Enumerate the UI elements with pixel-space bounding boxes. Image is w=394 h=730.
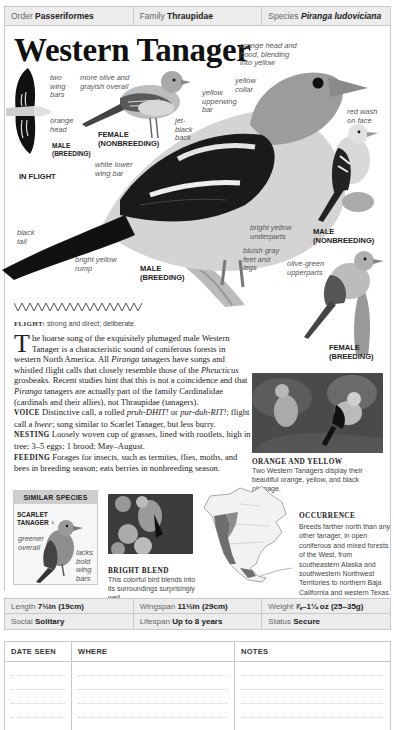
annotation-bluish-gray-feet: bluish gray feet and legs bbox=[243, 247, 283, 273]
log-rows bbox=[5, 662, 390, 730]
annotation-greener-overall: greener overall bbox=[18, 535, 42, 552]
species-value: Piranga ludoviciana bbox=[301, 11, 381, 21]
where-line[interactable] bbox=[78, 704, 228, 718]
voice-call: pruh-DHIT! bbox=[127, 407, 169, 417]
genus-name: Pheucticus bbox=[201, 365, 239, 375]
order-label: Order bbox=[11, 11, 33, 21]
tag-male-nonbreeding: MALE (NONBREEDING) bbox=[313, 227, 383, 245]
column-date-seen: DATE SEEN bbox=[5, 642, 72, 661]
status-value: Secure bbox=[293, 617, 320, 626]
log-header: DATE SEEN WHERE NOTES bbox=[5, 642, 390, 662]
where-line[interactable] bbox=[78, 662, 228, 676]
status-cell: Status Secure bbox=[262, 614, 390, 629]
column-notes: NOTES bbox=[235, 642, 390, 661]
orange-yellow-caption-title: ORANGE AND YELLOW bbox=[252, 457, 342, 466]
occurrence-title: OCCURRENCE bbox=[299, 511, 355, 520]
flight-pattern-icon bbox=[14, 302, 144, 312]
species-cell: Species Piranga ludoviciana bbox=[262, 7, 390, 25]
voice-text: or bbox=[169, 407, 180, 417]
notes-line[interactable] bbox=[241, 662, 384, 676]
weight-cell: Weight ⅞–1¼ oz (25–35g) bbox=[262, 599, 390, 613]
species-description: The hoarse song of the exquisitely pluma… bbox=[14, 333, 254, 474]
annotation-bright-yellow-rump: bright yellow rump bbox=[75, 256, 120, 273]
date-line[interactable] bbox=[11, 690, 65, 704]
lifespan-label: Lifespan bbox=[140, 617, 170, 626]
date-line[interactable] bbox=[11, 662, 65, 676]
social-label: Social bbox=[11, 617, 33, 626]
order-cell: Order Passeriformes bbox=[5, 7, 134, 25]
flight-description: FLIGHT: strong and direct; deliberate. bbox=[14, 320, 136, 328]
species-label: Species bbox=[268, 11, 298, 21]
notes-line[interactable] bbox=[241, 690, 384, 704]
annotation-black-tail: black tail bbox=[17, 229, 37, 246]
weight-label: Weight bbox=[268, 602, 293, 611]
tag-female-breeding: FEMALE (BREEDING) bbox=[329, 343, 379, 361]
voice-label: VOICE bbox=[14, 408, 40, 417]
annotation-jet-black-back: jet-black back bbox=[175, 117, 201, 143]
nesting-label: NESTING bbox=[14, 430, 50, 439]
lifespan-value: Up to 8 years bbox=[172, 617, 222, 626]
intro-text: tanagers are actually part of the family… bbox=[14, 386, 223, 407]
stats-row-1: Length 7½in (19cm) Wingspan 11½in (29cm)… bbox=[4, 598, 391, 614]
voice-text: ; song similar to Scarlet Tanager, but l… bbox=[52, 419, 216, 429]
wingspan-cell: Wingspan 11½in (29cm) bbox=[134, 599, 263, 613]
feeding-label: FEEDING bbox=[14, 453, 50, 462]
taxonomy-bar: Order Passeriformes Family Thraupidae Sp… bbox=[4, 6, 391, 26]
length-cell: Length 7½in (19cm) bbox=[5, 599, 134, 613]
social-cell: Social Solitary bbox=[5, 614, 134, 629]
notes-line[interactable] bbox=[241, 704, 384, 718]
date-line[interactable] bbox=[11, 704, 65, 718]
bright-blend-caption-title: BRIGHT BLEND bbox=[108, 566, 169, 575]
column-where: WHERE bbox=[72, 642, 235, 661]
voice-text: Distinctive call, a rolled bbox=[40, 407, 127, 417]
tag-male-breeding: MALE (BREEDING) bbox=[140, 264, 190, 282]
annotation-olive-green-upperparts: olive-green upperparts bbox=[287, 260, 327, 277]
flight-text: strong and direct; deliberate. bbox=[45, 320, 136, 327]
where-line[interactable] bbox=[78, 718, 228, 730]
genus-name: Piranga bbox=[14, 386, 42, 396]
date-seen-entries[interactable] bbox=[5, 662, 72, 730]
sighting-log-table: DATE SEEN WHERE NOTES bbox=[4, 641, 391, 730]
family-cell: Family Thraupidae bbox=[134, 7, 263, 25]
where-line[interactable] bbox=[78, 676, 228, 690]
status-label: Status bbox=[268, 617, 291, 626]
weight-value: ⅞–1¼ oz (25–35g) bbox=[295, 602, 363, 611]
drop-cap: T bbox=[14, 334, 30, 354]
notes-line[interactable] bbox=[241, 676, 384, 690]
similar-species-header: SIMILAR SPECIES bbox=[14, 491, 97, 504]
where-line[interactable] bbox=[78, 690, 228, 704]
intro-text: grosbeaks. Recent studies hint that this… bbox=[14, 375, 247, 385]
nesting-text: Loosely woven cup of grasses, lined with… bbox=[14, 429, 251, 451]
wingspan-value: 11½in (29cm) bbox=[177, 602, 227, 611]
flight-label: FLIGHT: bbox=[14, 320, 45, 328]
annotation-white-lower-wing: white lower wing bar bbox=[95, 161, 139, 178]
lifespan-cell: Lifespan Up to 8 years bbox=[134, 614, 263, 629]
male-nonbreeding-illustration bbox=[290, 120, 390, 230]
wingspan-label: Wingspan bbox=[140, 602, 176, 611]
order-value: Passeriformes bbox=[35, 11, 94, 21]
annotation-lacks-bold-wing-bars: lacks bold wing bars bbox=[76, 549, 96, 583]
length-value: 7½in (19cm) bbox=[38, 602, 84, 611]
length-label: Length bbox=[11, 602, 35, 611]
genus-name: Piranga bbox=[111, 354, 139, 364]
family-label: Family bbox=[140, 11, 165, 21]
annotation-yellow-upperwing: yellow upperwing bar bbox=[202, 89, 240, 115]
range-map bbox=[200, 484, 300, 584]
date-line[interactable] bbox=[11, 718, 65, 730]
bright-blend-photo bbox=[108, 494, 193, 554]
annotation-orange-hood: orange head and hood, blending into yell… bbox=[240, 42, 300, 68]
family-value: Thraupidae bbox=[167, 11, 213, 21]
social-value: Solitary bbox=[35, 617, 64, 626]
stats-row-2: Social Solitary Lifespan Up to 8 years S… bbox=[4, 614, 391, 630]
voice-call: pur-duh-RIT! bbox=[180, 407, 226, 417]
where-entries[interactable] bbox=[72, 662, 235, 730]
date-line[interactable] bbox=[11, 676, 65, 690]
orange-and-yellow-photo bbox=[252, 373, 383, 453]
notes-entries[interactable] bbox=[235, 662, 390, 730]
notes-line[interactable] bbox=[241, 718, 384, 730]
voice-call: hwee bbox=[35, 419, 53, 429]
